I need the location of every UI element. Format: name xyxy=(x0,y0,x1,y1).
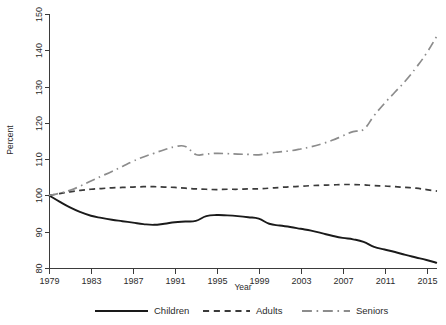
x-tick-label-1999: 1999 xyxy=(249,276,269,286)
y-tick-label-90: 90 xyxy=(34,227,44,237)
legend-label-children: Children xyxy=(154,305,189,316)
y-tick-label-120: 120 xyxy=(34,116,44,131)
y-tick-label-80: 80 xyxy=(34,263,44,273)
x-tick-label-1991: 1991 xyxy=(165,276,185,286)
x-tick-label-1995: 1995 xyxy=(207,276,227,286)
x-axis-title: Year xyxy=(234,282,251,292)
x-tick-label-1983: 1983 xyxy=(81,276,101,286)
y-tick-label-130: 130 xyxy=(34,80,44,95)
x-tick-label-1979: 1979 xyxy=(39,276,59,286)
y-tick-label-100: 100 xyxy=(34,188,44,203)
x-tick-label-2015: 2015 xyxy=(417,276,437,286)
x-tick-label-2007: 2007 xyxy=(333,276,353,286)
y-tick-label-150: 150 xyxy=(34,7,44,22)
x-tick-label-2011: 2011 xyxy=(376,276,395,286)
line-chart: 8090100110120130140150 19791983198719911… xyxy=(0,0,446,325)
y-tick-label-140: 140 xyxy=(34,43,44,58)
x-tick-label-2003: 2003 xyxy=(291,276,311,286)
legend-label-seniors: Seniors xyxy=(356,305,388,316)
y-tick-label-110: 110 xyxy=(34,152,44,166)
y-axis-title: Percent xyxy=(5,125,15,155)
x-tick-label-1987: 1987 xyxy=(123,276,143,286)
legend-label-adults: Adults xyxy=(256,305,283,316)
